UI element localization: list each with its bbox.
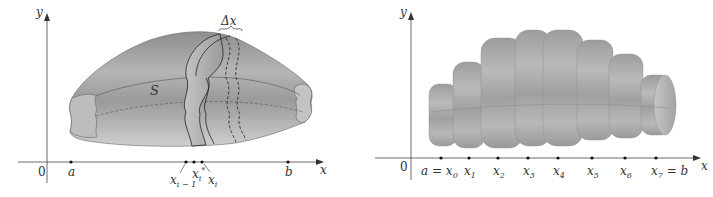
tick-label-x4: x4 [553,165,565,180]
solid-body [70,26,313,146]
point-x-i-star-label: xi* [192,167,205,183]
delta-x-label: Δx [221,15,236,27]
origin-label: 0 [38,166,46,178]
point-x-i-label: xi [208,174,217,189]
tick-label-x7: x7 = b [651,165,688,180]
tick-label-x3: x3 [523,165,535,180]
tick-label-x0: a = x0 [421,165,458,180]
tick-label-x2: x2 [493,165,505,180]
solid-s-diagram [0,0,345,197]
tick-label-x6: x6 [620,165,632,180]
slabs [429,30,676,148]
solid-slicing-figure: y x 0 S Δx a b xi − 1 xi* xi [0,0,345,197]
x-axis-label: x [320,164,327,176]
point-a-label: a [68,166,75,178]
tick-label-x1: x1 [464,165,476,180]
origin-label: 0 [400,161,408,173]
tick-label-x5: x5 [587,165,599,180]
y-axis-label: y [36,6,43,18]
point-b-label: b [285,166,293,178]
x-axis-label: x [701,160,708,172]
solid-label: S [150,84,159,97]
y-axis-label: y [400,6,407,18]
cylinder-approximation-figure: y x 0 a = x0 x1 x2 x3 x4 x5 x6 x7 = b [365,0,713,197]
